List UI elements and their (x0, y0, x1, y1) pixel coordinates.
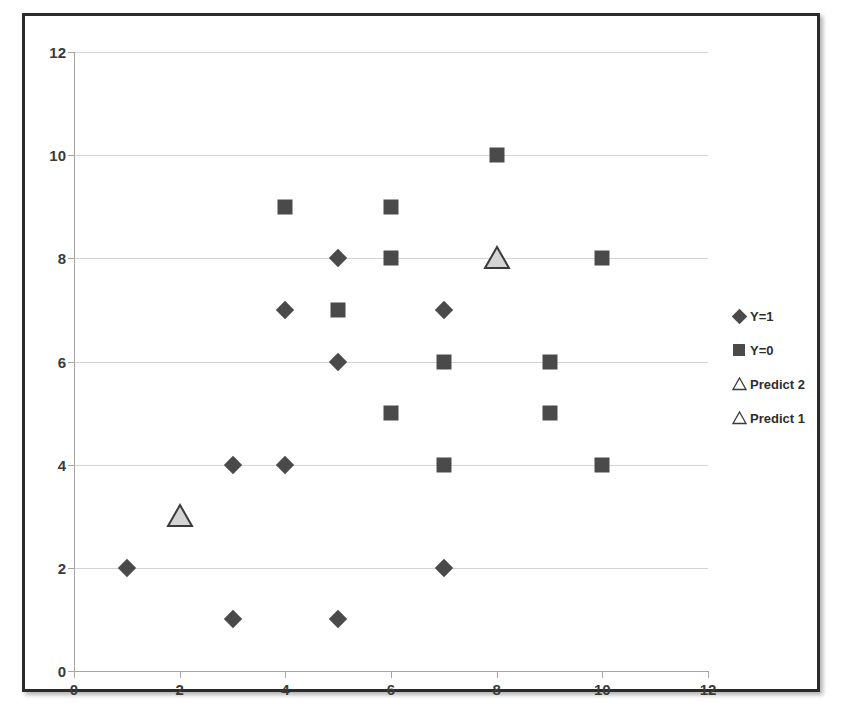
figure-frame: 024681012 024681012 Y=1Y=0Predict 2Predi… (22, 13, 820, 692)
x-tick-label-0: 0 (54, 682, 94, 697)
data-point-y-0-1 (331, 302, 346, 317)
x-tick-6 (391, 671, 392, 678)
legend-label: Predict 1 (750, 411, 805, 426)
data-point-y-0-6 (436, 354, 451, 369)
x-tick-label-2: 2 (160, 682, 200, 697)
data-point-y-0-7 (489, 148, 504, 163)
data-point-y-0-11 (595, 251, 610, 266)
x-tick-0 (74, 671, 75, 678)
data-point-y-0-3 (384, 251, 399, 266)
triangle-icon (731, 377, 747, 391)
legend-label: Y=1 (750, 309, 774, 324)
data-point-y-0-0 (278, 199, 293, 214)
data-point-y-1-6 (329, 352, 347, 370)
y-tick-label-2: 2 (25, 560, 66, 575)
x-tick-8 (497, 671, 498, 678)
y-tick-label-12: 12 (25, 45, 66, 60)
legend-item-predict-1[interactable]: Predict 1 (731, 401, 831, 435)
y-tick-label-8: 8 (25, 251, 66, 266)
y-tick-label-10: 10 (25, 148, 66, 163)
triangle-icon (731, 411, 747, 425)
data-point-y-1-2 (223, 455, 241, 473)
x-tick-label-6: 6 (371, 682, 411, 697)
x-tick-10 (602, 671, 603, 678)
x-tick-label-10: 10 (582, 682, 622, 697)
data-point-y-0-9 (542, 354, 557, 369)
x-tick-label-8: 8 (477, 682, 517, 697)
data-point-y-1-0 (118, 559, 136, 577)
data-point-y-1-1 (223, 610, 241, 628)
data-point-predict-1-0 (166, 503, 194, 529)
y-tick-label-0: 0 (25, 664, 66, 679)
data-point-y-1-7 (329, 249, 347, 267)
x-tick-4 (285, 671, 286, 678)
legend-label: Predict 2 (750, 377, 805, 392)
diamond-icon-shape (731, 308, 747, 324)
legend-item-y-0[interactable]: Y=0 (731, 333, 831, 367)
x-tick-2 (180, 671, 181, 678)
data-point-y-0-2 (384, 406, 399, 421)
data-point-y-1-8 (435, 559, 453, 577)
data-point-y-1-3 (276, 455, 294, 473)
data-point-y-0-10 (595, 457, 610, 472)
diamond-icon (731, 311, 747, 322)
chart-legend: Y=1Y=0Predict 2Predict 1 (731, 299, 831, 435)
legend-item-predict-2[interactable]: Predict 2 (731, 367, 831, 401)
x-tick-label-4: 4 (265, 682, 305, 697)
x-tick-12 (708, 671, 709, 678)
data-point-y-1-5 (329, 610, 347, 628)
square-icon-shape (733, 344, 745, 356)
data-point-predict-2-0 (483, 245, 511, 271)
legend-item-y-1[interactable]: Y=1 (731, 299, 831, 333)
scatter-plot-figure: 024681012 024681012 Y=1Y=0Predict 2Predi… (0, 0, 842, 724)
data-point-y-0-8 (542, 406, 557, 421)
data-point-y-1-4 (276, 301, 294, 319)
square-icon (731, 344, 747, 356)
legend-label: Y=0 (750, 343, 774, 358)
x-tick-label-12: 12 (688, 682, 728, 697)
data-point-y-0-5 (436, 457, 451, 472)
plot-area (74, 52, 708, 671)
data-point-y-1-9 (435, 301, 453, 319)
data-point-y-0-4 (384, 199, 399, 214)
y-tick-label-4: 4 (25, 457, 66, 472)
y-tick-label-6: 6 (25, 354, 66, 369)
